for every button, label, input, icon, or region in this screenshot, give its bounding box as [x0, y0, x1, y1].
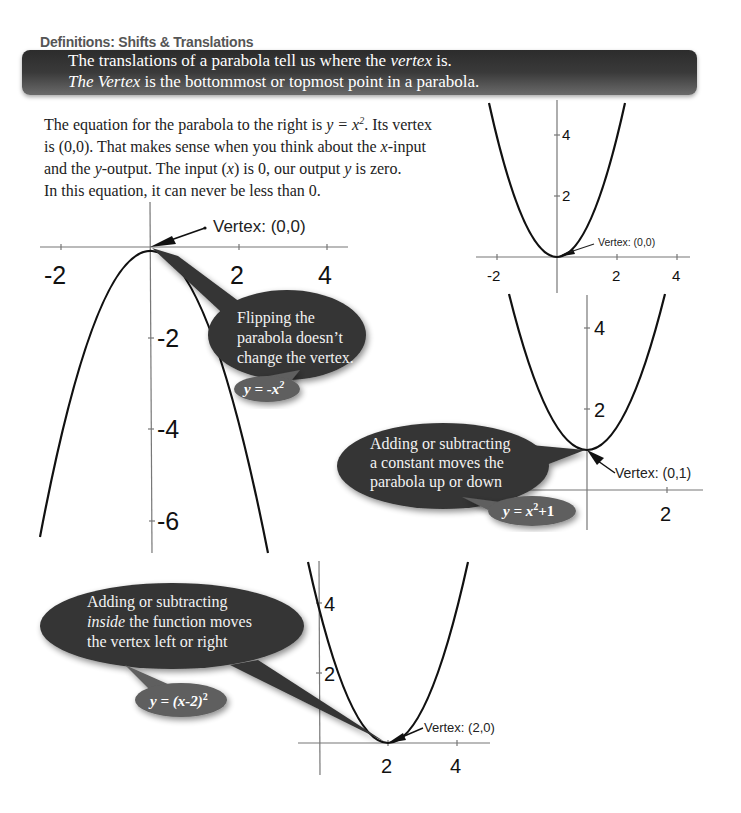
vertex-arrow-icon — [388, 733, 406, 743]
callout-text: Adding or subtracting — [87, 593, 227, 611]
y-tick-label: 2 — [562, 187, 570, 204]
y-tick-label: -4 — [157, 415, 179, 443]
x-tick-label: -2 — [487, 267, 500, 284]
vertex-pointer-line — [598, 461, 615, 473]
equation-text: y = -x2 — [242, 379, 284, 397]
vertex-pointer-line — [168, 228, 205, 241]
x-tick-label: -2 — [44, 261, 66, 289]
y-tick-label: 4 — [594, 317, 605, 339]
chart-vertical-shift: 2 2 4 Adding or subtracting a constant m… — [337, 294, 703, 530]
worksheet-page: Definitions: Shifts & Translations The t… — [0, 0, 741, 813]
callout-tail — [230, 660, 385, 742]
pointer-dot — [203, 226, 206, 229]
chart-parent-parabola: -2 2 4 2 4 Vertex: (0,0) — [476, 100, 690, 293]
callout-text: Flipping the — [237, 309, 315, 327]
y-tick-label: -6 — [157, 507, 179, 535]
vertex-label: Vertex: (2,0) — [424, 720, 495, 735]
y-tick-label: 4 — [562, 126, 570, 143]
parabola-curve — [308, 562, 468, 743]
chart-horizontal-shift: 2 4 2 4 Adding or subtracting inside the… — [40, 561, 495, 777]
parabola-curve — [40, 251, 268, 553]
equation-bubble — [125, 665, 227, 717]
callout-text: inside the function moves — [87, 613, 252, 630]
x-tick-label: 4 — [450, 755, 461, 777]
y-tick-label: 2 — [594, 399, 605, 421]
x-tick-label: 2 — [660, 503, 671, 525]
x-tick-label: 2 — [230, 261, 244, 289]
y-axis — [150, 202, 152, 553]
vertex-pointer-line — [402, 728, 423, 737]
equation-text: y = (x-2)2 — [148, 691, 208, 710]
callout-text: a constant moves the — [370, 454, 504, 471]
x-tick-label: 4 — [318, 261, 332, 289]
y-tick-label: -2 — [157, 324, 179, 352]
vertex-label: Vertex: (0,0) — [213, 217, 306, 236]
y-tick-label: 2 — [324, 663, 335, 685]
vertex-label: Vertex: (0,1) — [615, 465, 691, 481]
x-tick-label: 4 — [672, 267, 680, 284]
callout-text: Adding or subtracting — [370, 435, 510, 453]
y-tick-label: 4 — [324, 593, 335, 615]
vertex-arrow-icon — [150, 236, 176, 247]
vertex-arrow-icon — [557, 249, 575, 257]
chart-flipped-parabola: -2 2 4 -2 -4 -6 Flipping the parabola do… — [40, 202, 366, 553]
equation-text: y = x2+1 — [501, 501, 554, 519]
callout-text: parabola up or down — [370, 473, 502, 491]
callout-text: parabola doesn’t — [237, 329, 343, 347]
vertex-label: Vertex: (0,0) — [598, 236, 655, 248]
callout-text: the vertex left or right — [87, 633, 228, 651]
callout-text: change the vertex. — [237, 349, 354, 367]
graphs-canvas: -2 2 4 2 4 Vertex: (0,0) -2 2 4 -2 -4 -6 — [0, 0, 741, 813]
x-tick-label: 2 — [381, 755, 392, 777]
x-tick-label: 2 — [612, 267, 620, 284]
